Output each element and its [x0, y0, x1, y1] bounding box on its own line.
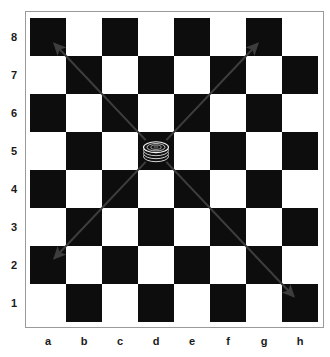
checker-king-piece[interactable]	[139, 135, 173, 165]
rank-label-3: 3	[4, 208, 24, 246]
rank-label-7: 7	[4, 56, 24, 94]
rank-label-1: 1	[4, 284, 24, 322]
rank-label-5: 5	[4, 132, 24, 170]
file-label-d: d	[138, 332, 174, 350]
file-label-g: g	[246, 332, 282, 350]
file-label-c: c	[102, 332, 138, 350]
rank-label-4: 4	[4, 170, 24, 208]
file-labels: abcdefgh	[30, 332, 318, 350]
file-label-f: f	[210, 332, 246, 350]
rank-label-8: 8	[4, 18, 24, 56]
checkers-diagram: 87654321	[0, 0, 330, 357]
rank-label-2: 2	[4, 246, 24, 284]
file-label-b: b	[66, 332, 102, 350]
file-label-e: e	[174, 332, 210, 350]
file-label-a: a	[30, 332, 66, 350]
rank-label-6: 6	[4, 94, 24, 132]
rank-labels: 87654321	[4, 18, 24, 322]
checkers-board[interactable]	[30, 18, 318, 322]
file-label-h: h	[282, 332, 318, 350]
piece-layer	[30, 18, 318, 322]
